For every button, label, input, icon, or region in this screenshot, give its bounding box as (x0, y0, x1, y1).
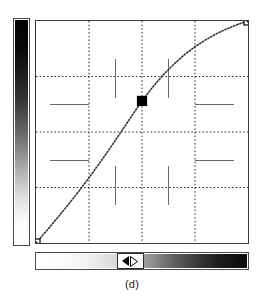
tone-curve-editor: (d) (0, 0, 264, 300)
grid-lines-vertical (89, 21, 195, 243)
output-ramp-gradient (15, 20, 28, 244)
input-slider-track[interactable] (37, 254, 247, 268)
figure-caption: (d) (0, 278, 264, 290)
input-intensity-slider[interactable] (35, 252, 249, 270)
mid-handle-selected[interactable] (138, 96, 147, 105)
arrow-right-icon[interactable] (130, 256, 138, 267)
plot-canvas[interactable] (36, 21, 248, 243)
transfer-function-plot[interactable] (35, 20, 249, 244)
lower-left-handle-center (36, 242, 37, 243)
arrow-left-icon[interactable] (122, 256, 129, 266)
slider-thumb[interactable] (117, 253, 144, 269)
plot-inner-area (36, 21, 248, 243)
output-intensity-ramp[interactable] (13, 18, 30, 246)
upper-right-handle-center (247, 21, 248, 22)
